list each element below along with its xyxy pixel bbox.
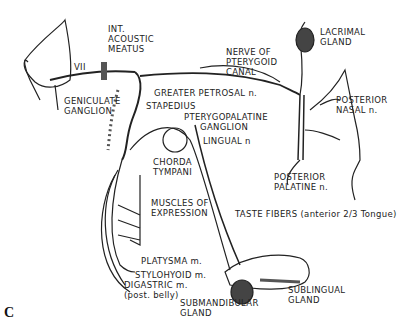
lacrimal-gland-shape (296, 28, 314, 52)
label-int-acoustic-meatus: INT.ACOUSTICMEATUS (108, 24, 154, 54)
label-posterior-palatine: POSTERIORPALATINE n. (274, 172, 328, 192)
label-digastric: DIGASTRIC m.(post. belly) (124, 280, 188, 300)
label-muscles-of-expression: MUSCLES OFEXPRESSION (151, 198, 209, 218)
label-geniculate-ganglion: GENICULATEGANGLION (64, 96, 121, 116)
label-nerve-pterygoid-canal: NERVE OFPTERYGOIDCANAL (226, 47, 277, 77)
label-posterior-nasal: POSTERIORNASAL n. (336, 95, 387, 115)
label-lacrimal-gland: LACRIMALGLAND (320, 27, 365, 47)
label-submandibular-gland: SUBMANDIBULARGLAND (180, 298, 259, 318)
nerve-vii-trunk (50, 71, 135, 80)
panel-letter: C (4, 305, 14, 321)
label-pterygopalatine-ganglion: PTERYGOPALATINEGANGLION (184, 112, 268, 132)
label-greater-petrosal: GREATER PETROSAL n. (154, 88, 257, 98)
label-platysma: PLATYSMA m. (141, 256, 202, 266)
label-sublingual-gland: SUBLINGUALGLAND (288, 285, 345, 305)
label-nerve-vii: VII (74, 62, 86, 72)
label-stylohyoid: STYLOHYOID m. (135, 270, 206, 280)
label-stapedius: STAPEDIUS (146, 101, 196, 111)
label-taste-fibers: TASTE FIBERS (anterior 2/3 Tongue) (235, 209, 397, 219)
label-lingual-nerve: LINGUAL n (203, 136, 251, 146)
label-chorda-tympani: CHORDATYMPANI (153, 157, 192, 177)
